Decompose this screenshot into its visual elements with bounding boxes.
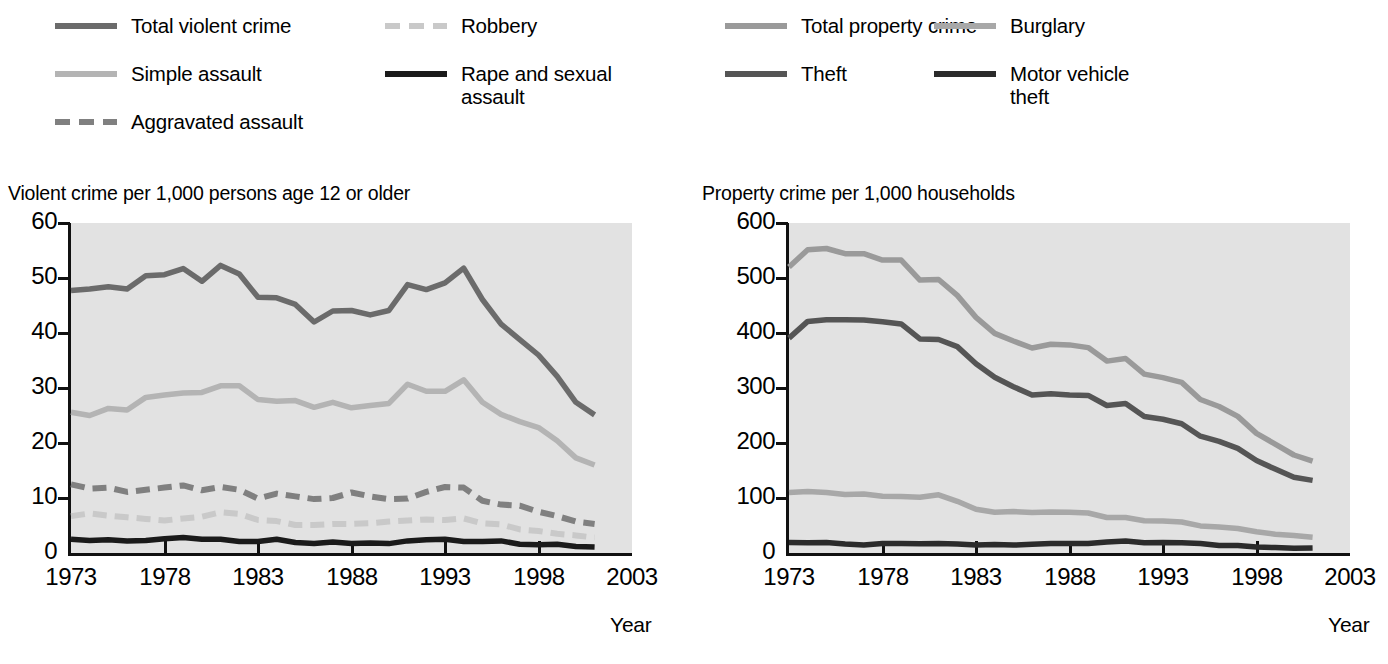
- y-axis-tick: [58, 497, 70, 500]
- x-axis-label: 1993: [1118, 563, 1208, 591]
- y-axis-tick: [776, 497, 788, 500]
- x-axis-label: 1973: [744, 563, 834, 591]
- x-axis-label: 1988: [1025, 563, 1115, 591]
- series-canvas: [694, 0, 1388, 440]
- y-axis-label: 0: [689, 537, 775, 565]
- x-axis-label: 1988: [307, 563, 397, 591]
- x-axis-label: 2003: [587, 563, 677, 591]
- y-axis-label: 10: [0, 482, 57, 510]
- x-axis-title: Year: [610, 613, 652, 637]
- x-axis-label: 1998: [494, 563, 584, 591]
- x-axis-label: 1993: [400, 563, 490, 591]
- series-line: [71, 265, 595, 415]
- x-axis-line: [786, 553, 1350, 556]
- y-axis-label: 0: [0, 537, 57, 565]
- x-axis-label: 1983: [213, 563, 303, 591]
- y-axis-label: 100: [689, 482, 775, 510]
- x-axis-label: 1973: [26, 563, 116, 591]
- x-axis-line: [68, 553, 632, 556]
- x-axis-tick: [444, 541, 447, 553]
- x-axis-title: Year: [1328, 613, 1370, 637]
- series-canvas: [0, 0, 694, 440]
- x-axis-label: 1998: [1212, 563, 1302, 591]
- x-axis-label: 2003: [1305, 563, 1388, 591]
- x-axis-label: 1983: [931, 563, 1021, 591]
- violent-crime-panel: Total violent crimeRobberySimple assault…: [0, 0, 694, 664]
- property-plot-area: 0100200300400500600197319781983198819931…: [694, 0, 1388, 440]
- x-axis-label: 1978: [838, 563, 928, 591]
- property-crime-panel: Total property crimeBurglaryTheftMotor v…: [694, 0, 1388, 664]
- x-axis-tick: [164, 541, 167, 553]
- x-axis-label: 1978: [120, 563, 210, 591]
- y-axis-tick: [58, 442, 70, 445]
- series-line: [789, 249, 1313, 462]
- y-axis-tick: [776, 442, 788, 445]
- violent-plot-area: 0102030405060197319781983198819931998200…: [0, 0, 694, 440]
